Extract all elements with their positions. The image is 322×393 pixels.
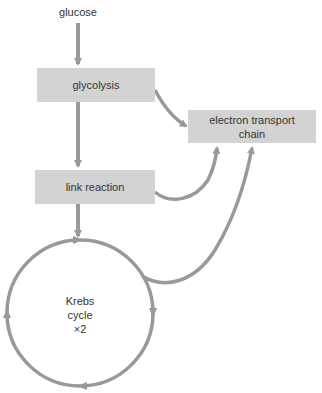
krebs-label-line3: ×2	[50, 322, 110, 336]
glycolysis-box: glycolysis	[37, 68, 155, 102]
krebs-label-line1: Krebs	[50, 294, 110, 308]
cycle-arrowhead-left	[3, 308, 11, 318]
arrow-glycolysis-to-etc	[155, 90, 186, 126]
etc-label-line1: electron transport	[209, 113, 295, 127]
link-reaction-label: link reaction	[66, 180, 125, 194]
krebs-cycle-label: Krebs cycle ×2	[50, 294, 110, 336]
glucose-label: glucose	[48, 5, 108, 19]
glycolysis-label: glycolysis	[72, 78, 119, 92]
arrow-krebs-to-etc	[142, 148, 252, 283]
etc-label-line2: chain	[239, 127, 265, 141]
cycle-arrowhead-bottom	[77, 382, 87, 390]
link-reaction-box: link reaction	[35, 170, 155, 204]
cycle-arrowhead-top	[73, 236, 83, 244]
electron-transport-chain-box: electron transport chain	[188, 110, 316, 143]
krebs-label-line2: cycle	[50, 308, 110, 322]
arrow-link-to-etc	[155, 148, 217, 199]
cycle-arrowhead-right	[149, 308, 157, 318]
